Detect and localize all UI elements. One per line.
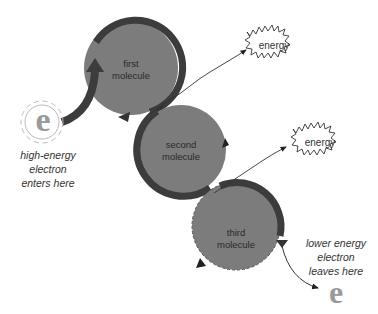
electron-out-symbol: e	[320, 274, 352, 310]
electron-in-symbol: e	[28, 100, 58, 140]
energy-label-1: energy	[254, 40, 294, 51]
first-molecule-label: first molecule	[96, 58, 166, 82]
second-molecule-label: second molecule	[146, 139, 216, 163]
energy-label-2: energy	[300, 137, 340, 148]
electron-in-caption: high-energy electron enters here	[8, 148, 88, 190]
third-molecule	[192, 182, 288, 270]
third-molecule-label: third molecule	[201, 227, 271, 251]
electron-out-caption: lower energy electron leaves here	[294, 236, 378, 278]
